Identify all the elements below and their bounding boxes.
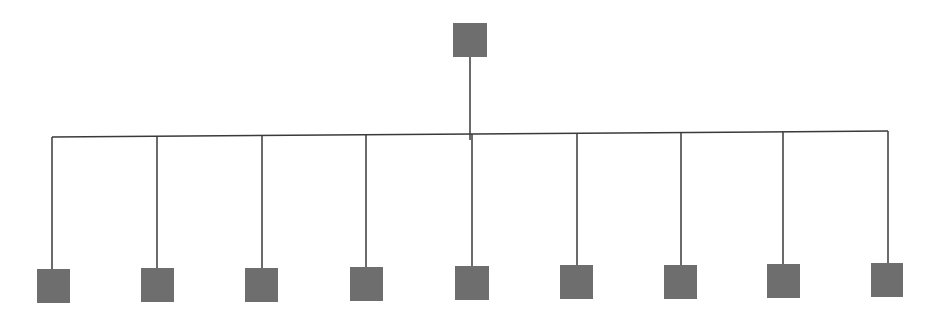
child-node-3 (245, 268, 278, 302)
child-node-5 (455, 266, 489, 300)
child-node-8 (767, 264, 800, 298)
child-node-9 (871, 263, 903, 297)
child-node-6 (560, 265, 593, 299)
root-node (453, 23, 487, 57)
child-node-7 (664, 265, 697, 299)
child-node-4 (350, 267, 383, 301)
child-node-1 (37, 269, 70, 303)
child-node-2 (141, 268, 174, 302)
tree-diagram (0, 0, 932, 316)
